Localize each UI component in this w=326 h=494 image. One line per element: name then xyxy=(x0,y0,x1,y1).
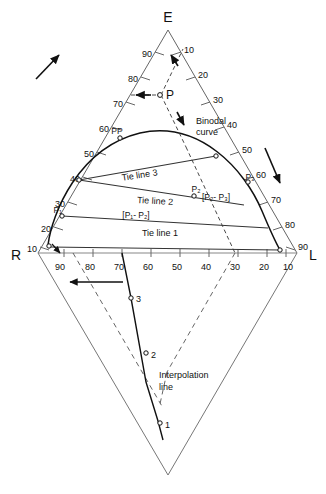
bottom-tick-20: 20 xyxy=(259,262,269,272)
left-tick-70: 70 xyxy=(113,99,123,109)
right-tick-90: 90 xyxy=(298,242,308,252)
raffinate-corner-arrow xyxy=(52,244,60,253)
bottom-tick-60: 60 xyxy=(143,262,153,272)
plait-point-marker xyxy=(118,136,122,140)
left-tick-10: 10 xyxy=(27,244,37,254)
left-tick-50: 50 xyxy=(84,149,94,159)
point-P2-label: P₂ xyxy=(192,184,201,194)
left-tick-60: 60 xyxy=(99,124,109,134)
tie-line-1-path xyxy=(49,247,280,250)
endpoint-tie1-right xyxy=(278,248,282,252)
lower-diamond xyxy=(38,253,297,475)
left-tick-90: 90 xyxy=(142,49,152,59)
right-axis-line xyxy=(168,30,297,253)
diamond-right-edge xyxy=(168,253,297,475)
endpoint-tie3-left xyxy=(77,178,81,182)
bracket-p1-p2-label: [P₁- P₂] xyxy=(122,210,149,220)
interpolation-line-path xyxy=(122,253,163,440)
tie-line-1-label: Tie line 1 xyxy=(142,228,178,238)
bottom-tick-50: 50 xyxy=(172,262,182,272)
bottom-tick-30: 30 xyxy=(230,262,240,272)
bottom-tick-70: 70 xyxy=(114,262,124,272)
bottom-axis-tick-labels: 90 80 70 60 50 40 30 20 10 xyxy=(55,262,293,272)
left-tick-20: 20 xyxy=(41,224,51,234)
bottom-tick-40: 40 xyxy=(201,262,211,272)
point-P2-marker xyxy=(192,194,196,198)
right-tick-70: 70 xyxy=(271,195,281,205)
binodal-curve-label-line1: Binodal xyxy=(196,116,226,126)
left-direction-arrow xyxy=(36,55,59,79)
diamond-dashed-left xyxy=(73,253,163,408)
right-tick-10: 10 xyxy=(184,45,194,55)
point-P3-label: P₃ xyxy=(245,172,254,182)
ternary-diagram-canvas: 90 80 70 60 50 40 30 20 10 10 20 30 40 5… xyxy=(0,0,326,494)
endpoint-tie1-left xyxy=(47,244,51,248)
point-P-label: P xyxy=(166,88,174,102)
binodal-curve-label-line2: curve xyxy=(196,127,218,137)
P-down-arrow xyxy=(177,112,184,125)
right-tick-20: 20 xyxy=(198,70,208,80)
right-tick-80: 80 xyxy=(285,220,295,230)
interp-point-3-marker xyxy=(129,296,133,300)
right-axis-tick-labels: 10 20 30 40 50 60 70 80 90 xyxy=(184,45,308,252)
left-tick-80: 80 xyxy=(128,74,138,84)
interpolation-line-group xyxy=(122,253,163,440)
right-direction-arrow xyxy=(265,148,280,183)
right-tick-40: 40 xyxy=(227,120,237,130)
interpolation-line-label-2: line xyxy=(159,382,173,392)
right-tick-30: 30 xyxy=(213,95,223,105)
corner-label-L: L xyxy=(309,247,317,263)
bracket-p2-p3-label: [P₂- P₃] xyxy=(202,192,230,202)
left-axis-tick-labels: 90 80 70 60 50 40 30 20 10 xyxy=(27,49,152,254)
bottom-tick-10: 10 xyxy=(283,262,293,272)
interpolation-line-label-1: Interpolation xyxy=(159,370,209,380)
corner-label-R: R xyxy=(11,247,21,263)
bottom-tick-90: 90 xyxy=(55,262,65,272)
diamond-left-edge xyxy=(38,253,168,475)
interp-point-3-label: 3 xyxy=(136,294,141,304)
right-tick-60: 60 xyxy=(256,170,266,180)
main-triangle xyxy=(38,30,297,253)
point-P-construction xyxy=(131,49,235,253)
point-P-marker xyxy=(158,93,163,98)
plait-point-label: PP xyxy=(111,126,123,136)
tie-line-2-label: Tie line 2 xyxy=(137,195,174,207)
corner-label-E: E xyxy=(163,9,172,25)
interp-point-1-label: 1 xyxy=(165,420,170,430)
interp-point-2-marker xyxy=(144,351,148,355)
interp-point-1-marker xyxy=(158,421,162,425)
right-axis-ticks xyxy=(172,52,295,250)
point-P1-label: P₁ xyxy=(53,205,62,215)
interp-point-2-label: 2 xyxy=(151,350,156,360)
P-up-arrow xyxy=(171,55,178,66)
tie-line-3-label: Tie line 3 xyxy=(121,167,158,183)
right-tick-50: 50 xyxy=(242,145,252,155)
endpoint-tie3-right xyxy=(214,154,218,158)
tie-line-2-path xyxy=(62,216,268,228)
bottom-tick-80: 80 xyxy=(85,262,95,272)
